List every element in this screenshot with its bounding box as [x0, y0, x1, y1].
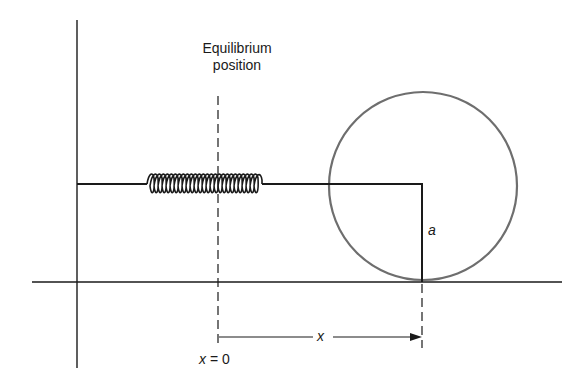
origin-label: x = 0 — [199, 351, 230, 367]
spring-icon — [147, 174, 262, 193]
displacement-label: x — [317, 328, 324, 344]
diagram-canvas — [0, 0, 586, 390]
origin-label-eq: = — [210, 351, 218, 367]
origin-label-val: 0 — [222, 351, 230, 367]
radius-label: a — [428, 222, 436, 238]
equilibrium-label-line1: Equilibrium — [182, 40, 292, 57]
equilibrium-label: Equilibrium position — [182, 40, 292, 74]
arrowhead-icon — [410, 333, 422, 341]
spring-wheel-diagram: Equilibrium position a x x = 0 — [0, 0, 586, 390]
origin-label-var: x — [199, 351, 206, 367]
equilibrium-label-line2: position — [182, 57, 292, 74]
